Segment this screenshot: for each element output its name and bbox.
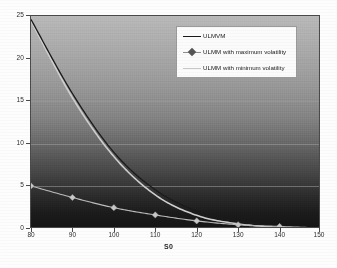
legend-entry-ulmvm: ULMVM: [181, 29, 296, 43]
x-tick-mark-100: [114, 228, 115, 232]
legend-label-ulmm-min: ULMM with minimum volatility: [203, 64, 284, 72]
x-tick-label-140: 140: [267, 231, 293, 238]
x-tick-mark-80: [31, 228, 32, 232]
legend-entry-ulmm-max: ULMM with maximum volatility: [181, 45, 296, 59]
x-tick-mark-140: [280, 228, 281, 232]
x-tick-label-130: 130: [225, 231, 251, 238]
x-tick-label-80: 80: [18, 231, 44, 238]
chart-legend: ULMVM ULMM with maximum volatility ULMM …: [176, 26, 297, 78]
x-tick-label-100: 100: [101, 231, 127, 238]
x-tick-label-110: 110: [142, 231, 168, 238]
x-tick-mark-120: [197, 228, 198, 232]
legend-key-line-icon: [181, 31, 203, 41]
x-tick-mark-150: [319, 228, 320, 232]
legend-entry-ulmm-min: ULMM with minimum volatility: [181, 61, 296, 75]
legend-key-line-light-icon: [181, 63, 203, 73]
x-tick-label-150: 150: [306, 231, 332, 238]
x-tick-mark-110: [155, 228, 156, 232]
chart-figure: 25 20 15 10 5 0 80 90 100 110 120 130 14…: [0, 0, 337, 268]
x-tick-mark-90: [72, 228, 73, 232]
legend-label-ulmvm: ULMVM: [203, 32, 225, 40]
x-tick-mark-130: [238, 228, 239, 232]
legend-label-ulmm-max: ULMM with maximum volatility: [203, 48, 286, 56]
legend-key-diamond-icon: [181, 47, 203, 57]
x-tick-label-90: 90: [59, 231, 85, 238]
x-tick-label-120: 120: [184, 231, 210, 238]
x-axis-title: S0: [0, 243, 337, 250]
